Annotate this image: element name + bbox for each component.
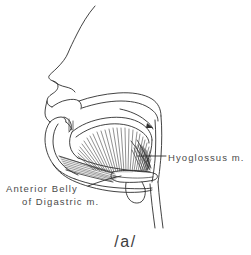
vocal-tract-line-drawing (0, 0, 251, 255)
upper-lip-path (52, 99, 81, 109)
facial-profile-path (47, 6, 95, 107)
tongue-dorsum-path (72, 117, 152, 140)
label-hyoglossus: Hyoglossus m. (168, 151, 245, 164)
label-digastric-line-1: Anterior Belly (6, 183, 78, 194)
pharyngeal-wall-path (158, 116, 162, 182)
hard-palate-path (79, 93, 161, 116)
neck-posterior-path (158, 182, 163, 228)
mandible-ramus-path (50, 117, 66, 122)
figure-caption-phoneme: /a/ (0, 233, 251, 251)
hard-palate-inner-path (82, 101, 158, 121)
label-anterior-belly-digastric: Anterior Belly of Digastric m. (6, 182, 99, 208)
label-digastric-line-2: of Digastric m. (6, 195, 99, 208)
tongue-dorsum-inner-path (76, 124, 149, 143)
anatomical-figure: Hyoglossus m. Anterior Belly of Digastri… (0, 0, 251, 255)
